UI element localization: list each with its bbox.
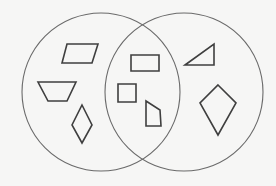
right-only-region [185,44,236,135]
right-triangle-shape [185,44,214,65]
kite-shape [200,85,236,135]
rhombus-shape [72,105,92,143]
square-shape [118,84,136,102]
trapezoid-shape [38,82,76,101]
quadrilateral-shape [146,101,161,126]
venn-diagram-svg [0,0,276,186]
right-circle [105,13,263,171]
rectangle-shape [131,55,159,71]
venn-diagram [0,0,276,186]
left-only-region [38,44,98,143]
left-circle [22,13,180,171]
intersection-region [118,55,161,126]
parallelogram-shape [62,44,98,63]
